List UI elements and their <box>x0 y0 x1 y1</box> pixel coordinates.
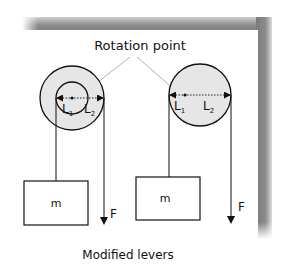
left-force-label: F <box>110 207 117 221</box>
right-mass-label: m <box>160 192 171 205</box>
right-rotation-point <box>183 93 186 96</box>
caption-modified-levers: Modified levers <box>82 248 173 262</box>
left-mass-label: m <box>51 197 62 210</box>
title-rotation-point: Rotation point <box>94 38 186 53</box>
left-rotation-point <box>70 96 73 99</box>
right-force-label: F <box>238 200 245 214</box>
modified-levers-diagram: Rotation point L1 L2 m F <box>0 0 284 277</box>
